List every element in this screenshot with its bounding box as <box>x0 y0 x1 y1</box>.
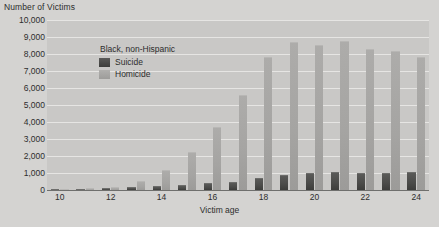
legend-item-homicide: Homicide <box>99 69 175 79</box>
bar-group <box>407 20 425 190</box>
y-tick-label: 7,000 <box>2 66 45 76</box>
bar-homicide-age-17 <box>239 95 247 190</box>
y-tick-label: 3,000 <box>2 134 45 144</box>
bar-group <box>306 20 324 190</box>
bar-group <box>255 20 273 190</box>
bar-homicide-age-24 <box>417 57 425 190</box>
y-tick-label: 0 <box>2 185 45 195</box>
bar-suicide-age-23 <box>382 173 390 190</box>
y-tick-label: 8,000 <box>2 49 45 59</box>
bar-suicide-age-21 <box>331 172 339 190</box>
x-tick-label: 20 <box>302 192 326 202</box>
bar-suicide-age-18 <box>255 178 263 190</box>
chart-figure: Number of Victims 10,0009,0008,0007,0006… <box>0 0 439 227</box>
legend-entries: SuicideHomicide <box>99 57 175 79</box>
y-tick-label: 2,000 <box>2 151 45 161</box>
bar-group <box>331 20 349 190</box>
x-tick-label: 18 <box>251 192 275 202</box>
x-tick-label: 10 <box>48 192 72 202</box>
bar-homicide-age-14 <box>162 170 170 190</box>
bar-suicide-age-19 <box>280 175 288 190</box>
bar-group <box>280 20 298 190</box>
y-tick-label: 1,000 <box>2 168 45 178</box>
bar-suicide-age-16 <box>204 183 212 190</box>
bar-homicide-age-13 <box>137 181 145 190</box>
x-axis-baseline <box>47 190 429 191</box>
legend-swatch-homicide <box>99 70 110 79</box>
y-tick-label: 6,000 <box>2 83 45 93</box>
bar-group <box>357 20 375 190</box>
bar-homicide-age-20 <box>315 45 323 190</box>
bar-group <box>382 20 400 190</box>
x-tick-label: 14 <box>150 192 174 202</box>
legend-label: Suicide <box>115 57 143 67</box>
x-tick-label: 24 <box>404 192 428 202</box>
bar-suicide-age-17 <box>229 182 237 190</box>
bar-suicide-age-20 <box>306 173 314 190</box>
x-axis-title: Victim age <box>0 205 439 215</box>
bar-group <box>51 20 69 190</box>
legend: Black, non-Hispanic SuicideHomicide <box>99 44 175 81</box>
bar-homicide-age-23 <box>391 51 399 190</box>
bar-group <box>76 20 94 190</box>
bar-group <box>204 20 222 190</box>
plot-area: Black, non-Hispanic SuicideHomicide <box>47 20 429 190</box>
legend-label: Homicide <box>115 69 150 79</box>
bar-group <box>178 20 196 190</box>
bar-homicide-age-21 <box>340 41 348 190</box>
legend-swatch-suicide <box>99 58 110 67</box>
y-tick-label: 10,000 <box>2 15 45 25</box>
bar-homicide-age-22 <box>366 49 374 190</box>
bar-group <box>229 20 247 190</box>
legend-title: Black, non-Hispanic <box>100 44 175 54</box>
bar-homicide-age-15 <box>188 152 196 190</box>
y-axis-tick-labels: 10,0009,0008,0007,0006,0005,0004,0003,00… <box>0 0 45 227</box>
x-tick-label: 16 <box>201 192 225 202</box>
y-tick-label: 9,000 <box>2 32 45 42</box>
legend-item-suicide: Suicide <box>99 57 175 67</box>
bar-homicide-age-16 <box>213 127 221 190</box>
x-tick-label: 12 <box>99 192 123 202</box>
bar-homicide-age-18 <box>264 57 272 190</box>
y-tick-label: 4,000 <box>2 117 45 127</box>
x-tick-label: 22 <box>353 192 377 202</box>
bar-suicide-age-24 <box>407 172 415 190</box>
bar-homicide-age-19 <box>290 42 298 190</box>
y-tick-label: 5,000 <box>2 100 45 110</box>
bar-suicide-age-22 <box>357 173 365 191</box>
